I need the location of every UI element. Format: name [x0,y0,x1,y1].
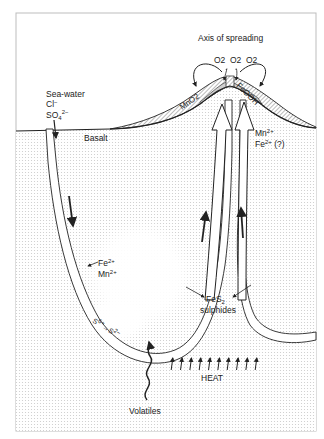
hydrothermal-circulation-diagram: Axis of spreading O2 O2 O2 MnO2 FeOOH Se… [0,0,324,439]
seawater-label: Sea-water Cl− SO42− [46,89,85,121]
svg-text:O2: O2 [246,55,258,65]
oxygen-label-3: O2 [246,55,258,65]
chloride-ion: Cl [46,99,54,109]
oxygen-label-1: O2 [214,55,226,65]
sulphate-ion: SO [46,110,59,120]
leached-mn: Mn [98,269,110,279]
heat-label: HEAT [201,373,223,383]
svg-text:Cl−: Cl− [46,99,58,109]
svg-text:O2: O2 [214,55,226,65]
sulphate-charge: 2− [62,109,69,115]
svg-text:SO42−: SO42− [46,109,69,121]
volatiles-label: Volatiles [129,406,161,416]
seawater-title: Sea-water [46,89,85,99]
rising-fe-uncertain: (?) [272,139,285,149]
sulphate-subscript: 4 [58,115,62,121]
axis-of-spreading-label: Axis of spreading [198,33,263,43]
oxygen-label-2: O2 [230,55,242,65]
leached-mn-charge: 2+ [110,269,117,275]
oxygen-arrow-inner-right [236,69,237,80]
svg-text:O2: O2 [230,55,242,65]
sulphides-text: sulphides [200,305,236,315]
fes2-formula: FeS [206,294,222,304]
rising-mn-charge: 2+ [267,128,274,134]
leached-fe-charge: 2+ [108,258,115,264]
chloride-charge: − [54,99,58,105]
rising-mn: Mn [255,128,267,138]
oxygen-labels: O2 O2 O2 [214,55,258,65]
rising-fe: Fe [255,139,265,149]
basalt-label: Basalt [84,133,108,143]
leached-fe: Fe [98,258,108,268]
vent-chimney [226,76,234,87]
